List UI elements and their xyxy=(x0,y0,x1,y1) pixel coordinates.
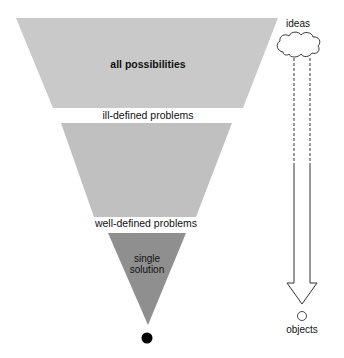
single-solution-label-line2: solution xyxy=(130,264,164,275)
objects-label: objects xyxy=(286,324,318,335)
object-circle-icon xyxy=(298,312,307,321)
design-funnel-diagram: all possibilities ill-defined problems w… xyxy=(0,0,344,358)
ideas-label: ideas xyxy=(286,18,310,29)
ill-defined-problems-label: ill-defined problems xyxy=(102,109,193,121)
end-point-dot xyxy=(142,333,153,344)
cloud-icon xyxy=(277,32,320,57)
down-arrow-icon xyxy=(287,165,317,304)
single-solution-triangle xyxy=(108,233,186,325)
all-possibilities-label: all possibilities xyxy=(110,58,185,70)
well-defined-problems-label: well-defined problems xyxy=(94,217,197,229)
middle-funnel-band xyxy=(61,123,232,217)
single-solution-label-line1: single xyxy=(134,253,161,264)
